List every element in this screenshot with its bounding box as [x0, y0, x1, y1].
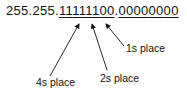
arrow-fours: [50, 24, 79, 76]
label-ones: 1s place: [126, 42, 165, 54]
label-twos: 2s place: [100, 72, 139, 84]
arrow-twos: [92, 24, 107, 70]
arrow-ones: [106, 24, 124, 46]
label-fours: 4s place: [36, 76, 75, 88]
